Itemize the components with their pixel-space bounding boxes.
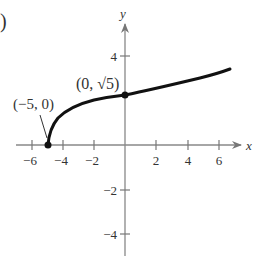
function-graph: ) x y −6 −4 −2 2 4 6 4 −2 −4 (−5, 0)	[0, 0, 263, 259]
annotation-y-intercept: (0, √5)	[76, 75, 119, 93]
y-tick-label: −4	[103, 227, 117, 242]
x-tick-labels: −6 −4 −2 2 4 6	[23, 153, 223, 168]
x-tick-label: −4	[54, 153, 68, 168]
x-tick-label: 2	[153, 153, 160, 168]
x-axis-label: x	[245, 138, 252, 153]
x-tick-label: 6	[216, 153, 223, 168]
panel-label: )	[0, 10, 7, 33]
leader-line	[40, 115, 47, 138]
annotation-endpoint: (−5, 0)	[13, 96, 54, 113]
x-tick-label: −2	[85, 153, 99, 168]
y-tick-label: 4	[111, 49, 118, 64]
point-y-intercept	[122, 92, 129, 99]
y-tick-label: −2	[103, 183, 117, 198]
y-axis-label: y	[118, 6, 126, 21]
x-tick-label: 4	[185, 153, 192, 168]
point-endpoint	[45, 142, 52, 149]
x-tick-label: −6	[23, 153, 37, 168]
